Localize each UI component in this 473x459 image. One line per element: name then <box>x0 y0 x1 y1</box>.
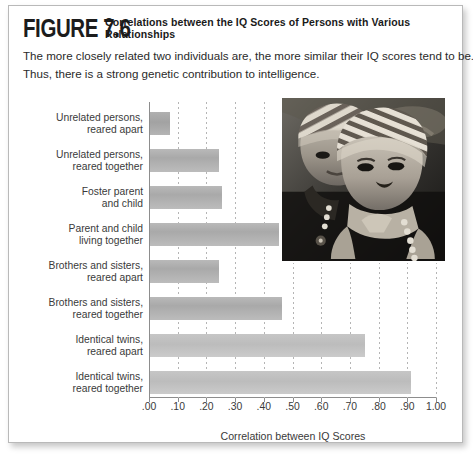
x-axis-tick-labels: .00.10.20.30.40.50.60.70.80.901.00 <box>149 401 449 415</box>
category-label: Brothers and sisters, reared apart <box>25 260 143 284</box>
bar <box>150 260 219 283</box>
bar <box>150 334 365 357</box>
category-label: Foster parent and child <box>25 186 143 210</box>
x-axis-tick-label: .90 <box>400 401 414 412</box>
category-label: Identical twins, reared apart <box>25 334 143 358</box>
category-label: Parent and child living together <box>25 223 143 247</box>
bar <box>150 186 222 209</box>
x-axis-tick-label: .30 <box>228 401 242 412</box>
x-axis-title: Correlation between IQ Scores <box>149 430 437 442</box>
bar <box>150 112 170 135</box>
category-axis-labels: Unrelated persons, reared apartUnrelated… <box>25 102 143 398</box>
bar <box>150 371 411 394</box>
inset-photograph <box>280 96 447 263</box>
x-axis-tick-label: .10 <box>170 401 184 412</box>
x-axis-tick-label: .80 <box>371 401 385 412</box>
category-label: Brothers and sisters, reared together <box>25 297 143 321</box>
category-label: Unrelated persons, reared apart <box>25 112 143 136</box>
x-axis-tick-label: .40 <box>257 401 271 412</box>
x-axis-tick-label: .20 <box>199 401 213 412</box>
x-axis-tick-label: .00 <box>142 401 156 412</box>
x-axis-tick-label: 1.00 <box>426 401 446 412</box>
bar <box>150 223 279 246</box>
x-axis-tick-label: .60 <box>314 401 328 412</box>
bar <box>150 149 219 172</box>
bar <box>150 297 282 320</box>
photo-image <box>282 98 445 261</box>
category-label: Identical twins, reared together <box>25 371 143 395</box>
x-axis-tick-label: .70 <box>343 401 357 412</box>
x-axis-tick-label: .50 <box>285 401 299 412</box>
category-label: Unrelated persons, reared together <box>25 149 143 173</box>
figure-card: FIGURE 7.6 Correlations between the IQ S… <box>8 5 463 443</box>
